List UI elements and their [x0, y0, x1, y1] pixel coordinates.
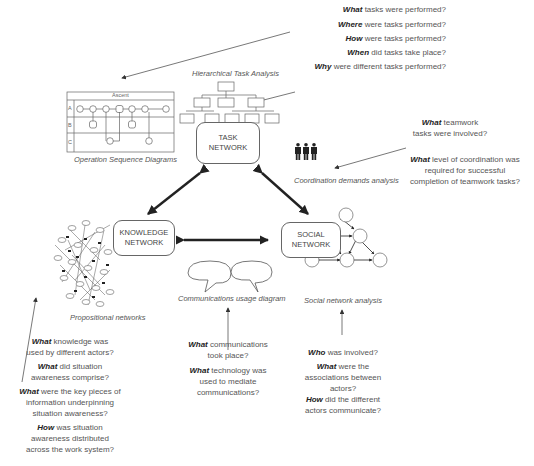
comm-question-2: What technology was used to mediate comm… — [183, 365, 273, 398]
caption-communications-usage-diagram: Communications usage diagram — [178, 294, 286, 303]
knowledge-question-3: What were the key pieces of information … — [15, 386, 125, 419]
osd-row-b: B — [68, 122, 72, 128]
social-question-3: How did the different actors communicate… — [300, 394, 386, 416]
osd-header: Ascent — [67, 92, 174, 98]
caption-social-network-analysis: Social network analysis — [304, 296, 382, 305]
caption-coordination-demands-analysis: Coordination demands analysis — [294, 176, 399, 185]
coordination-question-1: What teamwork tasks were involved? — [390, 117, 510, 139]
knowledge-network-label-1: KNOWLEDGE — [120, 228, 169, 238]
speech-bubbles-icon — [188, 261, 272, 292]
pointer-arrows — [22, 32, 406, 382]
knowledge-question-2: What did situation awareness comprise? — [20, 361, 120, 383]
task-network-node: TASK NETWORK — [196, 122, 260, 164]
osd-row-c: C — [68, 139, 72, 145]
comm-question-1: What communications took place? — [183, 339, 273, 361]
social-question-2: What were the associations between actor… — [300, 361, 386, 394]
caption-propositional-networks: Propositional networks — [70, 313, 145, 322]
knowledge-question-4: How was situation awareness distributed … — [20, 422, 120, 455]
task-network-label-1: TASK — [218, 133, 237, 143]
osd-row-a: A — [68, 105, 72, 111]
propositional-network-graphic — [54, 221, 114, 307]
task-question-1: What tasks were performed? — [280, 4, 446, 15]
task-network-label-2: NETWORK — [209, 143, 247, 153]
osd-graphic — [67, 92, 174, 152]
caption-hierarchical-task-analysis: Hierarchical Task Analysis — [192, 69, 279, 78]
knowledge-network-node: KNOWLEDGE NETWORK — [113, 220, 175, 256]
coordination-question-2: What level of coordination was required … — [400, 154, 530, 187]
social-network-label-2: NETWORK — [292, 240, 330, 250]
social-network-node: SOCIAL NETWORK — [281, 222, 341, 258]
task-question-2: Where were tasks performed? — [280, 19, 446, 30]
knowledge-network-label-2: NETWORK — [125, 238, 163, 248]
task-question-3: How were tasks performed? — [280, 33, 446, 44]
caption-operation-sequence-diagrams: Operation Sequence Diagrams — [74, 155, 177, 164]
social-network-label-1: SOCIAL — [297, 230, 325, 240]
task-question-4: When did tasks take place? — [280, 47, 446, 58]
hta-graphic — [180, 82, 279, 123]
people-icon — [295, 143, 317, 160]
task-question-5: Why were different tasks performed? — [280, 61, 446, 72]
knowledge-question-1: What knowledge was used by different act… — [20, 336, 120, 358]
social-question-1: Who was involved? — [300, 347, 386, 358]
